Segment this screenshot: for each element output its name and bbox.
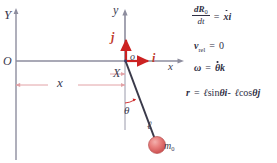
moving-y-axis-arrowhead xyxy=(122,9,127,15)
numerator-subscript: 0 xyxy=(205,8,208,15)
r-symbol: r xyxy=(186,87,190,98)
moving-x-axis-label: x xyxy=(168,61,173,72)
fixed-x-axis-arrowhead xyxy=(178,58,185,63)
unit-vector-j-label: j xyxy=(111,31,114,43)
bob-mass-subscript: 0 xyxy=(171,145,174,152)
omega-symbol: ω xyxy=(194,62,201,73)
fixed-y-axis-label: Y xyxy=(4,8,11,21)
fraction-numerator: dR0 xyxy=(192,5,210,16)
equation-velocity-of-origin: dR0 dt = xi xyxy=(192,6,231,27)
i-vector-0: i xyxy=(228,11,231,22)
derivative-fraction: dR0 dt xyxy=(192,5,210,26)
equals-sign-3: = xyxy=(194,87,200,98)
moving-origin-label: o xyxy=(130,52,135,62)
equals-sign-0: = xyxy=(214,11,220,22)
fixed-y-axis-arrowhead xyxy=(14,8,19,14)
minus-operator: - xyxy=(227,87,230,98)
theta-arc-path xyxy=(125,100,134,103)
zero-value: 0 xyxy=(219,40,224,51)
moving-y-axis-label: y xyxy=(113,4,118,16)
bob-mass-label: m0 xyxy=(164,141,174,151)
equation-angular-velocity: ω = θk xyxy=(194,59,225,75)
equation-list: dR0 dt = xi vrel = 0 ω = θk r = ℓsinθi- … xyxy=(186,2,277,102)
rel-subscript: rel xyxy=(198,46,205,53)
xdot-symbol: x xyxy=(223,12,228,22)
equation-relative-velocity: vrel = 0 xyxy=(194,37,224,53)
x-dimension-label: x xyxy=(57,76,63,89)
term2-vector: j xyxy=(257,87,260,98)
fraction-denominator: dt xyxy=(192,16,210,26)
k-vector: k xyxy=(220,62,225,73)
X-point-label: X xyxy=(113,67,120,79)
equation-position-vector: r = ℓsinθi- ℓcosθj xyxy=(186,84,260,100)
unit-vector-i-label: i xyxy=(152,52,155,64)
pendulum-bob xyxy=(149,137,166,154)
term1-trig: sin xyxy=(208,87,220,98)
pendulum-bob-circle xyxy=(149,137,166,154)
term2-trig: cos xyxy=(239,87,252,98)
physics-figure: Y O y x o X x i j θ ℓ m0 dR0 dt = xi vre… xyxy=(0,0,277,163)
fixed-origin-label: O xyxy=(3,55,12,67)
rod-length-label: ℓ xyxy=(147,120,152,131)
theta-angle-arc xyxy=(125,99,136,103)
numerator-symbol: dR xyxy=(194,4,205,14)
equals-sign-2: = xyxy=(205,62,211,73)
thetadot-symbol: θ xyxy=(215,63,220,73)
moving-origin-dot xyxy=(124,60,127,63)
equals-sign-1: = xyxy=(209,40,215,51)
theta-angle-label: θ xyxy=(124,105,129,116)
